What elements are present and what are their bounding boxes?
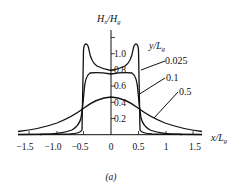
svg-text:0.2: 0.2 (114, 114, 126, 124)
legend-labels: 0.025 0.1 0.5 (165, 55, 192, 97)
chart-figure: 0.2 0.4 0.6 0.8 1.0 −1.5 −1.0 −0.5 0 0.5… (0, 0, 242, 187)
svg-text:1.5: 1.5 (189, 142, 201, 152)
svg-text:0.6: 0.6 (114, 81, 126, 91)
svg-text:1: 1 (164, 142, 169, 152)
svg-text:0: 0 (109, 142, 114, 152)
x-tick-labels: −1.5 −1.0 −0.5 0 0.5 1 1.5 (16, 142, 201, 152)
svg-text:0.1: 0.1 (166, 72, 179, 83)
svg-text:0.5: 0.5 (179, 86, 192, 97)
svg-text:0.025: 0.025 (165, 55, 188, 66)
y-axis-label: Hx/Hg (96, 13, 121, 25)
svg-text:−1.0: −1.0 (44, 142, 61, 152)
svg-text:0.5: 0.5 (133, 142, 145, 152)
legend-leaders (140, 61, 179, 118)
y-tick-labels: 0.2 0.4 0.6 0.8 1.0 (114, 49, 126, 124)
x-axis-label: x/Lg (210, 132, 228, 144)
figure-caption: (a) (105, 172, 116, 183)
svg-text:1.0: 1.0 (114, 49, 126, 59)
legend-title: y/Lg (148, 40, 166, 52)
svg-text:−1.5: −1.5 (16, 142, 33, 152)
svg-text:−0.5: −0.5 (71, 142, 88, 152)
curve-0.5 (18, 97, 202, 132)
